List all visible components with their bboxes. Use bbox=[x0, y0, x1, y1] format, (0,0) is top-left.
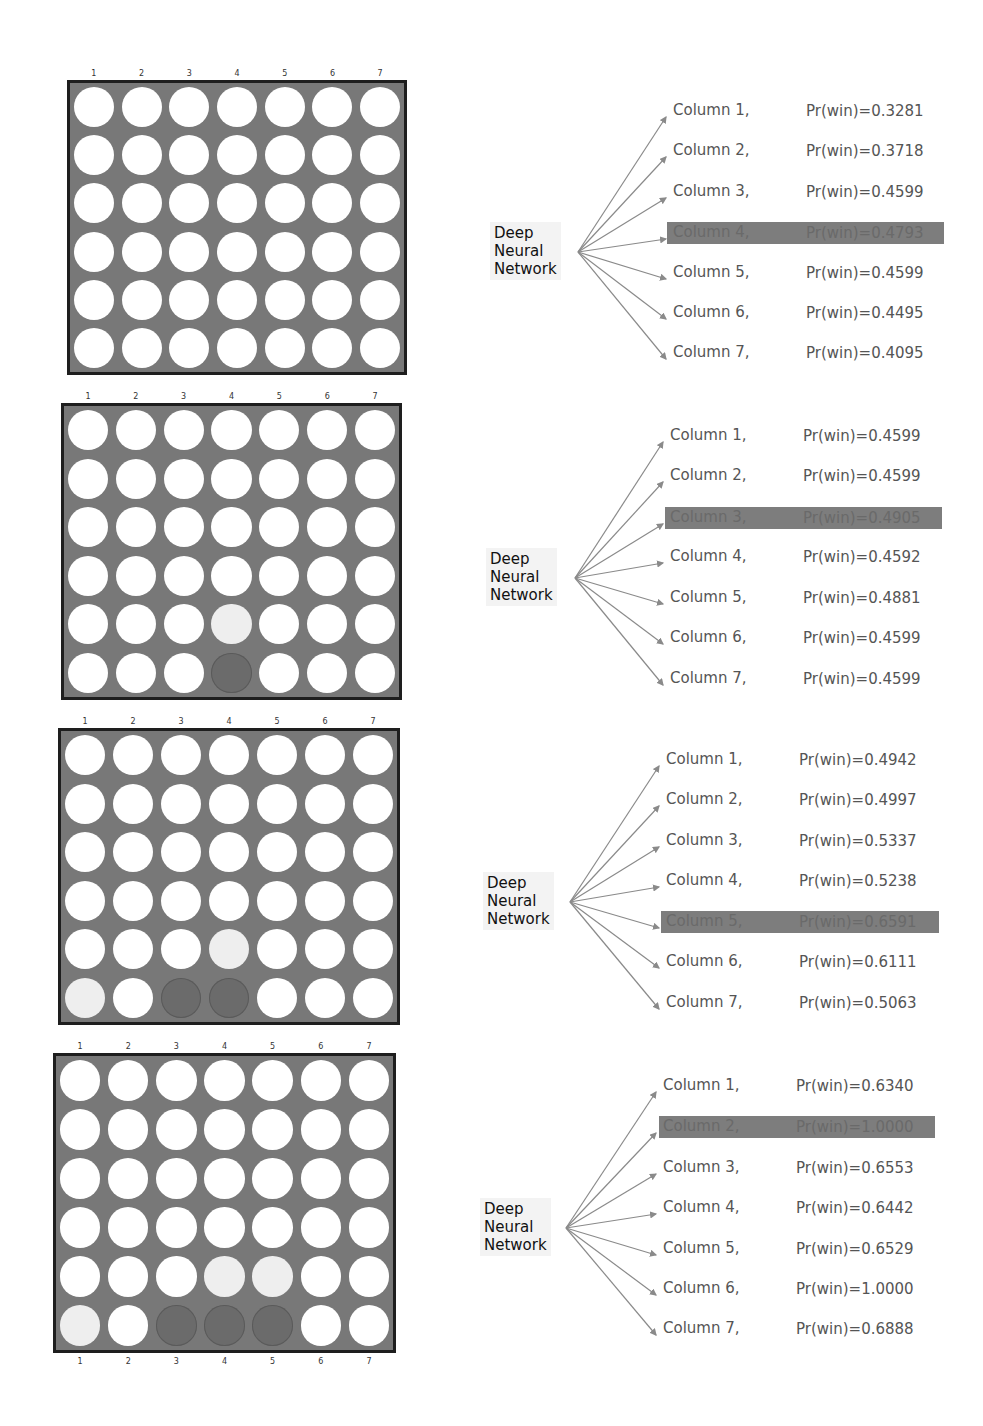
arrow-icon bbox=[570, 902, 659, 968]
arrow-icon bbox=[578, 252, 666, 279]
arrow-icon bbox=[570, 887, 659, 902]
arrow-icon bbox=[578, 252, 666, 319]
arrow-icon bbox=[575, 578, 663, 685]
arrow-icon bbox=[566, 1228, 656, 1255]
arrow-icon bbox=[578, 157, 666, 252]
arrow-icon bbox=[566, 1092, 656, 1228]
arrow-icon bbox=[575, 578, 663, 644]
arrow-icon bbox=[570, 902, 659, 928]
arrow-icon bbox=[566, 1133, 656, 1228]
arrow-icon bbox=[578, 198, 666, 252]
arrow-icon bbox=[566, 1228, 656, 1335]
arrow-icon bbox=[575, 442, 663, 578]
arrow-icon bbox=[575, 482, 663, 578]
arrow-icon bbox=[578, 252, 666, 359]
arrow-icon bbox=[575, 578, 663, 604]
arrow-icon bbox=[570, 766, 659, 902]
arrow-icon bbox=[570, 806, 659, 902]
arrow-icon bbox=[566, 1228, 656, 1295]
arrow-layer bbox=[0, 0, 983, 1426]
arrow-icon bbox=[578, 239, 666, 252]
arrow-icon bbox=[566, 1174, 656, 1228]
arrow-icon bbox=[570, 847, 659, 902]
arrow-icon bbox=[570, 902, 659, 1009]
arrow-icon bbox=[566, 1214, 656, 1228]
arrow-icon bbox=[578, 117, 666, 252]
